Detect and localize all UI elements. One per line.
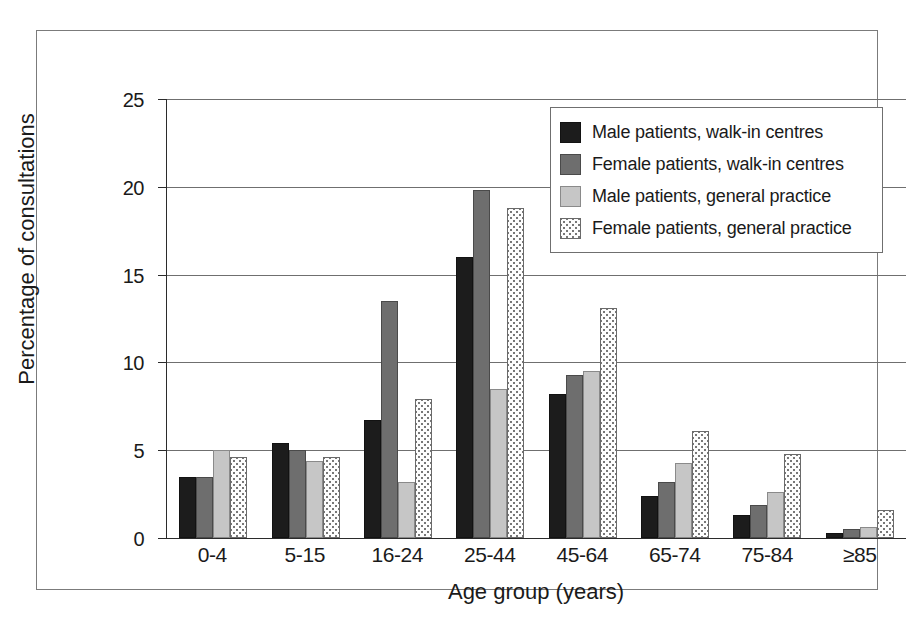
bar <box>826 533 843 538</box>
y-axis-tick-label: 0 <box>133 528 144 551</box>
x-axis-tick-label: ≥85 <box>814 543 907 567</box>
legend-item-label: Male patients, walk-in centres <box>592 122 823 143</box>
y-axis-tick: 5 <box>158 450 167 451</box>
bar <box>196 477 213 538</box>
legend-item[interactable]: Female patients, general practice <box>560 212 872 244</box>
bar <box>733 515 750 538</box>
y-axis-tick-label: 25 <box>123 89 144 112</box>
bar <box>323 457 340 538</box>
legend-swatch-icon <box>560 122 581 143</box>
legend-swatch-icon <box>560 186 581 207</box>
y-axis-title: Percentage of consultations <box>14 14 40 484</box>
bar <box>398 482 415 538</box>
y-axis-tick: 10 <box>158 362 167 363</box>
x-axis-tick-label: 16-24 <box>351 543 444 567</box>
x-axis-tick-label: 75-84 <box>721 543 814 567</box>
bar-group <box>352 99 444 538</box>
bar <box>566 375 583 538</box>
bar <box>784 454 801 538</box>
x-axis-tick-label: 25-44 <box>444 543 537 567</box>
bar <box>860 527 877 538</box>
bar <box>877 510 894 538</box>
bar <box>750 505 767 538</box>
chart-legend: Male patients, walk-in centresFemale pat… <box>550 107 883 253</box>
bar <box>600 308 617 538</box>
bar <box>843 529 860 538</box>
bar <box>289 450 306 538</box>
legend-swatch-icon <box>560 218 581 239</box>
bar <box>767 492 784 538</box>
legend-item-label: Female patients, general practice <box>592 218 852 239</box>
bar <box>583 371 600 538</box>
bar <box>456 257 473 538</box>
bar <box>507 208 524 538</box>
y-axis-tick-label: 10 <box>123 352 144 375</box>
bar <box>658 482 675 538</box>
bar <box>230 457 247 538</box>
bar <box>415 399 432 538</box>
bar <box>306 461 323 538</box>
y-axis-tick: 25 <box>158 99 167 100</box>
bar <box>473 190 490 538</box>
y-axis-tick-label: 20 <box>123 176 144 199</box>
bar-group <box>167 99 259 538</box>
y-axis-tick: 0 <box>158 538 167 539</box>
x-axis-tick-label: 5-15 <box>259 543 352 567</box>
legend-item-label: Male patients, general practice <box>592 186 831 207</box>
figure-frame: Percentage of consultations 0510152025 0… <box>36 30 878 590</box>
bar <box>692 431 709 538</box>
legend-swatch-icon <box>560 154 581 175</box>
legend-item[interactable]: Female patients, walk-in centres <box>560 148 872 180</box>
y-axis-tick-label: 5 <box>133 440 144 463</box>
bar <box>641 496 658 538</box>
bar <box>381 301 398 538</box>
x-axis-tick-labels: 0-45-1516-2425-4445-6465-7475-84≥85 <box>166 543 906 567</box>
y-axis-tick: 15 <box>158 275 167 276</box>
legend-item-label: Female patients, walk-in centres <box>592 154 844 175</box>
bar-group <box>259 99 351 538</box>
bar <box>364 420 381 538</box>
bar-group <box>444 99 536 538</box>
x-axis-tick-label: 65-74 <box>629 543 722 567</box>
legend-item[interactable]: Male patients, general practice <box>560 180 872 212</box>
bar <box>675 463 692 539</box>
bar <box>179 477 196 538</box>
x-axis-title: Age group (years) <box>166 579 906 605</box>
bar <box>549 394 566 538</box>
x-axis-tick-label: 45-64 <box>536 543 629 567</box>
x-axis-tick-label: 0-4 <box>166 543 259 567</box>
legend-item[interactable]: Male patients, walk-in centres <box>560 116 872 148</box>
bar <box>213 450 230 538</box>
y-axis-tick-label: 15 <box>123 264 144 287</box>
y-axis-tick: 20 <box>158 187 167 188</box>
bar <box>272 443 289 538</box>
bar <box>490 389 507 538</box>
